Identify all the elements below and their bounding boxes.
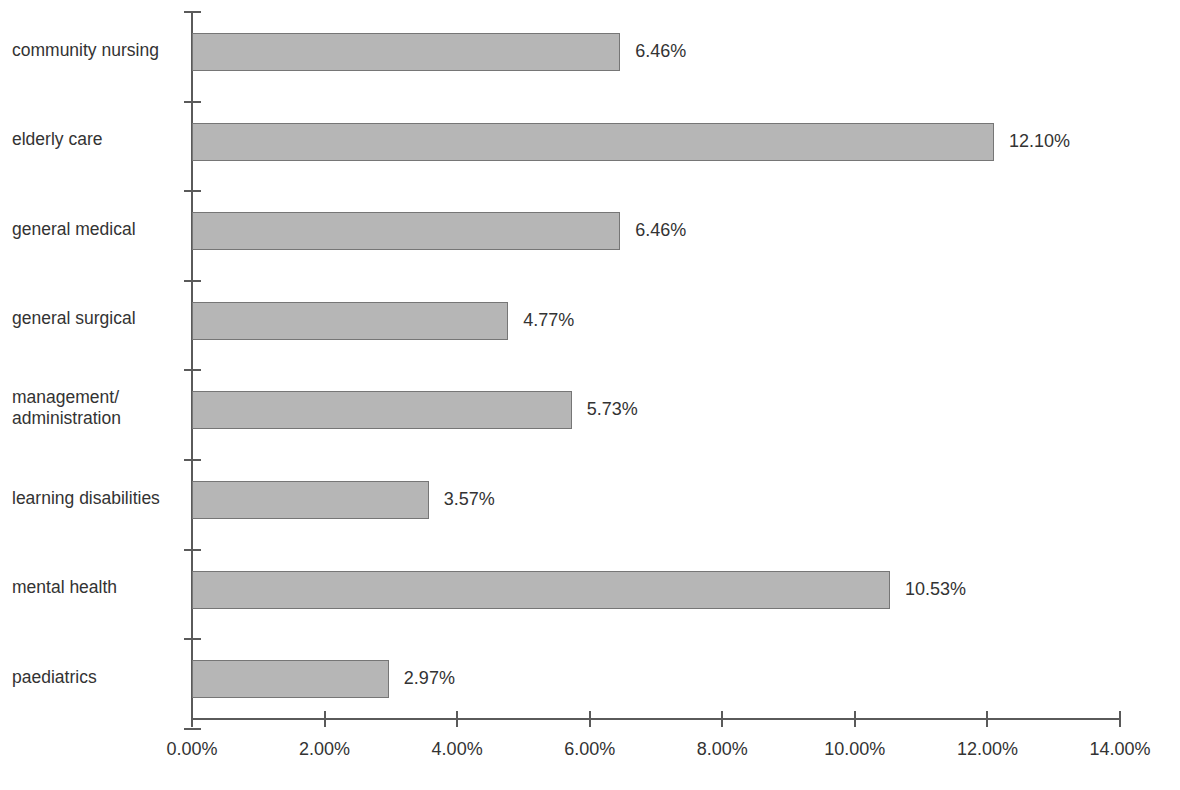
bar [192,481,429,519]
bar-value-label: 4.77% [523,310,574,330]
category-label: elderly care [12,129,188,150]
category-label: general medical [12,219,188,240]
category-label: paediatrics [12,667,188,688]
y-axis-tick [184,280,201,282]
bar [192,33,620,71]
bar [192,302,508,340]
x-axis-tick [1119,711,1121,727]
x-axis-tick [589,711,591,727]
x-axis-tick-label: 10.00% [795,738,915,760]
category-label: learning disabilities [12,488,188,509]
x-axis-tick [191,711,193,727]
bar [192,123,994,161]
category-label: community nursing [12,40,188,61]
bar-value-label: 3.57% [444,489,495,509]
bar [192,571,890,609]
category-label: mental health [12,577,188,598]
y-axis-tick [184,549,201,551]
x-axis-tick-label: 8.00% [662,738,782,760]
plot-area: community nursingelderly caregeneral med… [0,0,1180,790]
bar-value-label: 6.46% [635,220,686,240]
x-axis-tick [721,711,723,727]
x-axis-line [191,718,1121,720]
y-axis-tick [184,728,201,730]
x-axis-tick-label: 14.00% [1060,738,1180,760]
y-axis-line [191,11,193,720]
bar-value-label: 6.46% [635,41,686,61]
bar-value-label: 5.73% [587,399,638,419]
bar [192,660,389,698]
bar [192,212,620,250]
x-axis-tick-label: 12.00% [927,738,1047,760]
x-axis-tick-label: 2.00% [265,738,385,760]
x-axis-tick-label: 0.00% [132,738,252,760]
y-axis-tick [184,190,201,192]
x-axis-tick [456,711,458,727]
x-axis-tick [324,711,326,727]
y-axis-tick [184,369,201,371]
category-label: management/ administration [12,387,188,429]
bar-value-label: 10.53% [905,579,966,599]
y-axis-tick [184,638,201,640]
x-axis-tick-label: 6.00% [530,738,650,760]
y-axis-tick [184,101,201,103]
y-axis-tick [184,11,201,13]
bar-value-label: 12.10% [1009,131,1070,151]
category-label: general surgical [12,308,188,329]
y-axis-tick [184,459,201,461]
x-axis-tick-label: 4.00% [397,738,517,760]
x-axis-tick [986,711,988,727]
x-axis-tick [854,711,856,727]
bar [192,391,572,429]
bar-value-label: 2.97% [404,668,455,688]
bar-chart: community nursingelderly caregeneral med… [0,0,1180,790]
